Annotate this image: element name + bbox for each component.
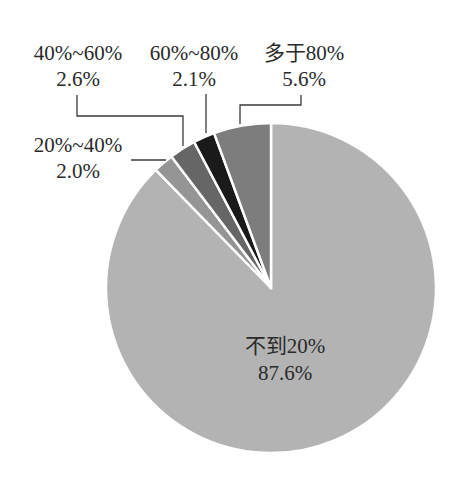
pie-slices [106, 123, 436, 453]
label-60-80-pct: 2.1% [172, 67, 216, 91]
label-lt20-name: 不到20% [245, 334, 326, 358]
label-40-60-pct: 2.6% [56, 67, 100, 91]
label-20-40-pct: 2.0% [56, 159, 100, 183]
label-60-80-name: 60%~80% [150, 41, 238, 65]
label-20-40-name: 20%~40% [34, 133, 122, 157]
label-gt80-pct: 5.6% [282, 67, 326, 91]
label-40-60-name: 40%~60% [34, 41, 122, 65]
leader-line-gt80 [240, 95, 301, 124]
label-gt80-name: 多于80% [264, 41, 345, 65]
label-lt20-pct: 87.6% [258, 361, 312, 385]
pie-chart: 40%~60% 2.6% 60%~80% 2.1% 多于80% 5.6% 20%… [0, 0, 464, 485]
